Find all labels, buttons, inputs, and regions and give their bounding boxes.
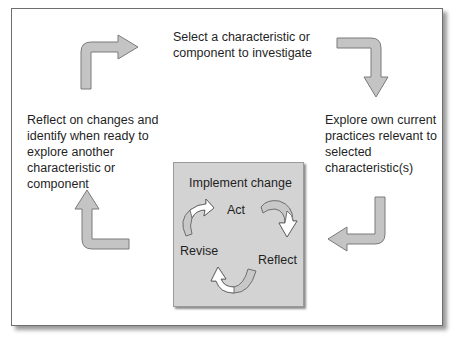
arrow-right-down-icon xyxy=(337,37,387,99)
step-select-text: Select a characteristic or component to … xyxy=(173,29,323,61)
cycle-label-reflect: Reflect xyxy=(258,253,297,267)
cycle-label-revise: Revise xyxy=(180,244,218,258)
cycle-arrow-reflect-to-revise-icon xyxy=(210,259,260,299)
arrow-left-up-icon xyxy=(75,189,131,251)
step-reflect-text: Reflect on changes and identify when rea… xyxy=(27,112,177,192)
cycle-label-act: Act xyxy=(227,203,245,217)
cycle-arrow-revise-to-act-icon xyxy=(180,198,220,238)
arrow-up-right-icon xyxy=(80,34,140,90)
implement-change-box: Implement change Act Reflect Revise xyxy=(173,162,304,307)
implement-change-title: Implement change xyxy=(189,176,292,190)
step-explore-text: Explore own current practices relevant t… xyxy=(325,112,455,176)
arrow-down-left-icon xyxy=(327,196,387,252)
cycle-arrow-act-to-reflect-icon xyxy=(259,197,301,243)
